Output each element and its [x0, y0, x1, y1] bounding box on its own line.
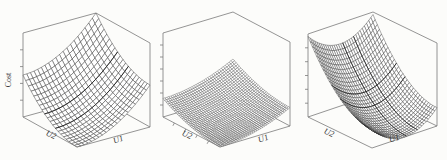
u2-axis-label: U2	[322, 126, 336, 140]
u2-axis-label: U2	[180, 128, 194, 142]
figure-canvas: Cost U2 U1 U2 U1 U2 U1	[0, 0, 447, 160]
cost-axis-label: Cost	[4, 72, 13, 87]
surface-mesh-left	[20, 13, 150, 147]
u1-axis-label: U1	[256, 132, 269, 145]
surface-plot-middle: U2 U1	[149, 0, 298, 160]
surface-plot-left: Cost U2 U1	[0, 0, 149, 160]
surface-mesh-middle	[160, 12, 290, 147]
surface-plot-right: U2 U1	[298, 0, 447, 160]
